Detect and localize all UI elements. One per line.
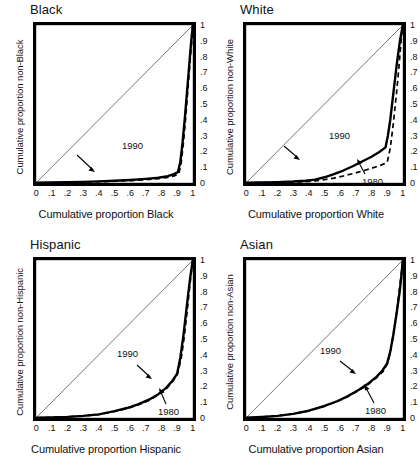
y-tick-label: 0 [200,413,205,423]
x-tick-label: .4 [305,188,313,198]
y-tick-label: .4 [410,350,418,360]
plot-svg-asian [243,257,406,421]
y-tick-label: .3 [410,131,418,141]
x-tick-label: 0 [244,188,249,198]
x-tick-label: .6 [126,188,134,198]
x-tick-label: 0 [34,423,39,433]
x-tick-label: .8 [368,188,376,198]
x-tick-label: .9 [383,188,391,198]
x-axis-ticks-asian: 0.1.2.3.4.5.6.7.8.91 [210,423,420,435]
y-tick-label: .7 [200,302,208,312]
panel-title-black: Black [30,2,62,17]
y-tick-label: .8 [200,287,208,297]
y-tick-label: .8 [200,52,208,62]
panel-title-hispanic: Hispanic [30,237,81,252]
y-tick-label: .9 [410,36,418,46]
y-tick-label: 1 [200,20,205,30]
panel-asian: Asian Cumulative proportion non-Asian 19… [210,235,420,470]
x-tick-label: .2 [64,188,72,198]
panel-hispanic: Hispanic Cumulative proportion non-Hispa… [0,235,210,470]
x-tick-label: .2 [274,188,282,198]
annotation-1980-white: 1980 [362,176,383,187]
x-tick-label: .4 [95,423,103,433]
y-tick-label: .1 [410,162,418,172]
x-axis-label-hispanic: Cumulative proportion Hispanic [6,443,206,455]
y-tick-label: .1 [410,397,418,407]
x-tick-label: .8 [368,423,376,433]
y-tick-label: .4 [200,115,208,125]
y-tick-label: .6 [200,318,208,328]
y-tick-label: .8 [410,287,418,297]
x-tick-label: .7 [142,423,150,433]
y-tick-label: .2 [410,381,418,391]
y-tick-label: 0 [410,178,415,188]
y-tick-label: 1 [410,255,415,265]
annotation-1990-black: 1990 [122,140,143,151]
x-tick-label: .2 [64,423,72,433]
y-tick-label: .5 [410,334,418,344]
y-tick-label: .6 [200,83,208,93]
panel-white: White Cumulative proportion non-White 19… [210,0,420,235]
panel-black: Black Cumulative proportion non-Black 19… [0,0,210,235]
x-tick-label: .6 [126,423,134,433]
x-axis-label-white: Cumulative proportion White [216,208,416,220]
x-tick-label: 1 [400,188,405,198]
y-tick-label: .4 [410,115,418,125]
y-tick-label: .7 [410,67,418,77]
panel-title-asian: Asian [240,237,273,252]
plot-svg-black [33,22,196,186]
x-axis-label-asian: Cumulative proportion Asian [216,443,416,455]
x-tick-label: .3 [289,188,297,198]
y-tick-label: .6 [410,83,418,93]
x-tick-label: .5 [111,423,119,433]
x-tick-label: .9 [383,423,391,433]
plot-area-hispanic [33,257,196,421]
y-tick-label: .2 [410,146,418,156]
annotation-1990-hispanic: 1990 [117,348,138,359]
y-tick-label: 0 [200,178,205,188]
x-tick-label: 1 [190,188,195,198]
x-axis-ticks-black: 0.1.2.3.4.5.6.7.8.91 [0,188,210,200]
plot-area-black [33,22,196,186]
y-tick-label: .5 [200,99,208,109]
y-tick-label: .5 [200,334,208,344]
annotation-1980-hispanic: 1980 [158,406,179,417]
x-tick-label: .3 [79,188,87,198]
y-tick-label: .7 [410,302,418,312]
x-axis-ticks-white: 0.1.2.3.4.5.6.7.8.91 [210,188,420,200]
y-tick-label: .6 [410,318,418,328]
y-tick-label: .2 [200,146,208,156]
plot-area-white [243,22,406,186]
y-tick-label: .1 [200,162,208,172]
x-tick-label: .9 [173,423,181,433]
x-tick-label: .8 [158,188,166,198]
x-axis-label-black: Cumulative proportion Black [6,208,206,220]
figure-grid: Black Cumulative proportion non-Black 19… [0,0,420,470]
y-tick-label: .9 [410,271,418,281]
x-tick-label: .3 [79,423,87,433]
annotation-1980-asian: 1980 [365,405,386,416]
x-tick-label: .1 [258,188,266,198]
x-tick-label: .5 [321,423,329,433]
y-tick-label: .5 [410,99,418,109]
y-axis-label-hispanic: Cumulative proportion non-Hispanic [14,257,28,427]
y-tick-label: .3 [200,131,208,141]
plot-area-asian [243,257,406,421]
x-tick-label: 0 [244,423,249,433]
y-tick-label: .1 [200,397,208,407]
y-tick-label: .2 [200,381,208,391]
y-tick-label: 0 [410,413,415,423]
x-tick-label: .7 [352,423,360,433]
x-tick-label: .5 [321,188,329,198]
y-tick-label: 1 [410,20,415,30]
plot-svg-white [243,22,406,186]
x-tick-label: .3 [289,423,297,433]
x-tick-label: .7 [352,188,360,198]
annotation-1990-asian: 1990 [320,345,341,356]
x-tick-label: .1 [48,188,56,198]
y-axis-label-asian: Cumulative proportion non-Asian [224,257,238,427]
x-tick-label: .7 [142,188,150,198]
x-tick-label: .4 [95,188,103,198]
y-tick-label: 1 [200,255,205,265]
x-tick-label: .2 [274,423,282,433]
